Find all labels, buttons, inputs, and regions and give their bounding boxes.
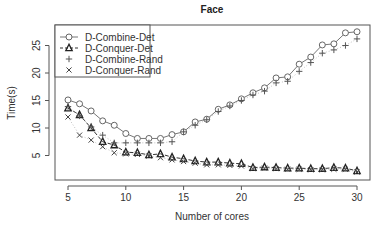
y-axis: 510152025 <box>31 40 49 159</box>
legend-label: D-Conquer-Rand <box>85 65 161 76</box>
x-tick-label: 30 <box>351 192 363 203</box>
legend-label: D-Conquer-Det <box>85 43 153 54</box>
legend-label: D-Combine-Rand <box>85 54 163 65</box>
y-tick-label: 25 <box>31 40 42 52</box>
x-tick-label: 10 <box>120 192 132 203</box>
x-tick-label: 20 <box>236 192 248 203</box>
x-axis-label: Number of cores <box>175 211 249 222</box>
legend-label: D-Combine-Det <box>85 32 155 43</box>
chart-title: Face <box>201 4 224 15</box>
x-tick-label: 5 <box>65 192 71 203</box>
line-chart: Face 51015202530 510152025 Number of cor… <box>0 0 388 226</box>
y-axis-label: Time(s) <box>6 86 17 120</box>
legend: D-Combine-DetD-Conquer-DetD-Combine-Rand… <box>55 25 163 77</box>
x-tick-label: 25 <box>294 192 306 203</box>
y-tick-label: 5 <box>31 152 42 158</box>
x-tick-label: 15 <box>178 192 190 203</box>
y-tick-label: 20 <box>31 67 42 79</box>
y-tick-label: 15 <box>31 95 42 107</box>
x-axis: 51015202530 <box>65 186 363 203</box>
y-tick-label: 10 <box>31 122 42 134</box>
